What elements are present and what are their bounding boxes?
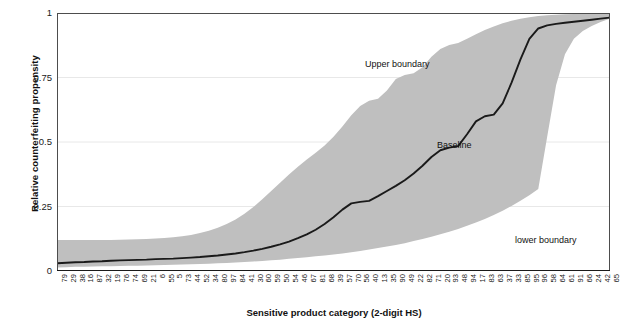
y-axis-tick-label: 0.75 bbox=[8, 73, 52, 82]
annotation-lower-boundary: lower boundary bbox=[515, 235, 577, 245]
uncertainty-band bbox=[58, 13, 610, 267]
x-axis-tick-labels: 7929381687321976746921655573445234809784… bbox=[57, 272, 610, 306]
annotation-upper-boundary: Upper boundary bbox=[365, 59, 430, 69]
y-axis-tick-labels: 00.250.50.751 bbox=[0, 0, 52, 325]
y-axis-tick-label: 0.5 bbox=[8, 137, 52, 146]
y-axis-tick-label: 1 bbox=[8, 8, 52, 17]
y-axis-tick-label: 0 bbox=[8, 266, 52, 275]
annotation-baseline: Baseline bbox=[437, 140, 472, 150]
chart-figure: Relative counterfeiting propensity 00.25… bbox=[0, 0, 620, 325]
x-axis-tick-label: 65 bbox=[613, 274, 620, 304]
y-axis-tick-label: 0.25 bbox=[8, 202, 52, 211]
x-axis-title: Sensitive product category (2-digit HS) bbox=[56, 307, 612, 318]
chart-svg bbox=[57, 13, 610, 271]
plot-area bbox=[57, 13, 610, 271]
